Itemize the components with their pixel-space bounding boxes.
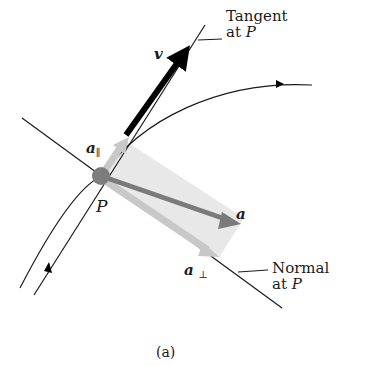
figure-caption: (a) (156, 344, 175, 360)
diagram-graphic (0, 0, 368, 366)
normal-label-prefix: at (272, 275, 292, 293)
normal-label: Normal at P (272, 260, 329, 292)
a-parallel-label: a∥ (86, 140, 100, 161)
acceleration-label: a (236, 206, 246, 222)
tangent-label-line1: Tangent (226, 8, 288, 24)
point-p-label: P (96, 198, 107, 214)
a-perpendicular-label: a ⊥ (184, 262, 208, 283)
point-p (92, 167, 110, 185)
a-parallel-symbol: a (86, 139, 96, 157)
normal-label-line1: Normal (272, 260, 329, 276)
velocity-label: v (154, 46, 163, 62)
a-perpendicular-subscript: ⊥ (199, 269, 208, 280)
acceleration-components-diagram: Tangent at P v a∥ P a a ⊥ Normal at P (a… (0, 0, 368, 366)
tangent-line (34, 25, 205, 295)
tangent-label: Tangent at P (226, 8, 288, 40)
velocity-vector (126, 55, 183, 135)
path-direction-arrow-icon (276, 80, 284, 88)
tangent-leader-line (198, 39, 222, 40)
normal-label-point: P (292, 275, 302, 293)
tangent-label-point: P (246, 23, 256, 41)
a-parallel-subscript: ∥ (96, 147, 101, 158)
normal-leader-line (238, 270, 268, 272)
tangent-label-prefix: at (226, 23, 246, 41)
a-perpendicular-symbol: a (184, 261, 194, 279)
